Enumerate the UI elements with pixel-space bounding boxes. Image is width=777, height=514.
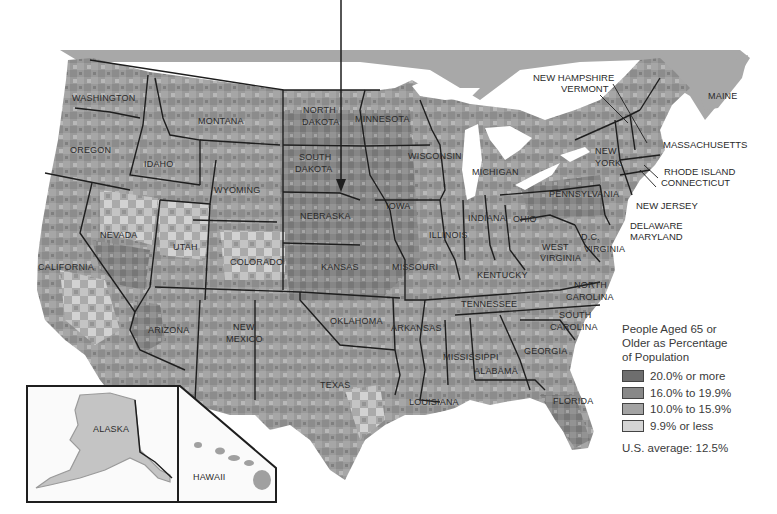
state-label: WASHINGTON bbox=[72, 93, 136, 103]
state-label: INDIANA bbox=[468, 213, 506, 223]
state-label: OREGON bbox=[70, 145, 111, 155]
state-label: VIRGINIA bbox=[540, 253, 581, 263]
state-label: NEW bbox=[595, 146, 617, 156]
legend-title: People Aged 65 or Older as Percentage of… bbox=[622, 322, 752, 364]
state-label: GEORGIA bbox=[524, 346, 567, 356]
state-label: VIRGINIA bbox=[584, 244, 625, 254]
state-label: WISCONSIN bbox=[408, 151, 462, 161]
callout-label: NEW HAMPSHIRE bbox=[533, 72, 614, 83]
state-label: WYOMING bbox=[214, 185, 260, 195]
state-label: MONTANA bbox=[198, 116, 244, 126]
legend-item-10-to-15: 10.0% to 15.9% bbox=[622, 401, 777, 417]
state-label: MICHIGAN bbox=[472, 167, 519, 177]
state-label: YORK bbox=[595, 158, 621, 168]
state-label: CAROLINA bbox=[550, 322, 598, 332]
legend-title-line: People Aged 65 or bbox=[622, 322, 752, 336]
state-label: CALIFORNIA bbox=[38, 262, 94, 272]
state-label: CAROLINA bbox=[566, 292, 614, 302]
state-label: NEBRASKA bbox=[300, 211, 351, 221]
callout-label: DELAWARE bbox=[630, 220, 683, 231]
state-label: ALASKA bbox=[93, 424, 129, 434]
alaska-inset bbox=[27, 386, 178, 502]
legend-item-16-to-19: 16.0% to 19.9% bbox=[622, 385, 777, 401]
callout-label: MASSACHUSETTS bbox=[663, 139, 747, 150]
state-label: SOUTH bbox=[559, 310, 592, 320]
region-colorado-light bbox=[220, 230, 285, 280]
state-label: MISSOURI bbox=[392, 262, 438, 272]
state-label: NORTH bbox=[574, 280, 607, 290]
state-label: ARKANSAS bbox=[391, 323, 442, 333]
callout-label: CONNECTICUT bbox=[661, 177, 730, 188]
state-label: NEVADA bbox=[100, 230, 138, 240]
legend-item-20-plus: 20.0% or more bbox=[622, 368, 777, 384]
legend-item-under-10: 9.9% or less bbox=[622, 418, 777, 434]
state-label: KENTUCKY bbox=[477, 270, 528, 280]
state-label: NEW bbox=[233, 322, 255, 332]
state-label: HAWAII bbox=[193, 472, 226, 482]
state-label: D.C. bbox=[581, 232, 600, 242]
state-label: DAKOTA bbox=[295, 164, 333, 174]
legend-label: 20.0% or more bbox=[650, 370, 725, 382]
state-label: IDAHO bbox=[144, 159, 174, 169]
state-label: COLORADO bbox=[230, 257, 283, 267]
state-label: MISSISSIPPI bbox=[443, 352, 499, 362]
state-label: MINNESOTA bbox=[355, 114, 410, 124]
state-label: KANSAS bbox=[321, 262, 359, 272]
legend-label: 10.0% to 15.9% bbox=[650, 403, 731, 415]
callout-label: VERMONT bbox=[561, 83, 609, 94]
legend-swatch bbox=[622, 420, 644, 432]
state-label: ALABAMA bbox=[474, 366, 518, 376]
callout-label: MARYLAND bbox=[630, 231, 683, 242]
legend-label: 9.9% or less bbox=[650, 420, 713, 432]
state-label: OHIO bbox=[513, 214, 537, 224]
state-label: WEST bbox=[542, 242, 569, 252]
legend-title-line: of Population bbox=[622, 350, 752, 364]
callout-label: RHODE ISLAND bbox=[664, 166, 735, 177]
state-label: LOUISIANA bbox=[409, 397, 459, 407]
state-label: SOUTH bbox=[299, 152, 332, 162]
state-label: NORTH bbox=[303, 105, 336, 115]
legend-swatch bbox=[622, 370, 644, 382]
legend: People Aged 65 or Older as Percentage of… bbox=[622, 322, 777, 454]
callout-label: NEW JERSEY bbox=[636, 200, 698, 211]
state-label: FLORIDA bbox=[553, 396, 593, 406]
state-label: TENNESSEE bbox=[461, 299, 517, 309]
state-label: DAKOTA bbox=[302, 117, 340, 127]
legend-label: 16.0% to 19.9% bbox=[650, 387, 731, 399]
legend-swatch bbox=[622, 387, 644, 399]
state-label: PENNSYLVANIA bbox=[549, 189, 619, 199]
legend-title-line: Older as Percentage bbox=[622, 336, 752, 350]
state-label: OKLAHOMA bbox=[330, 316, 383, 326]
state-label: IOWA bbox=[386, 201, 410, 211]
legend-swatch bbox=[622, 403, 644, 415]
state-label: MEXICO bbox=[226, 334, 263, 344]
state-label: UTAH bbox=[173, 242, 198, 252]
state-label: ARIZONA bbox=[148, 325, 189, 335]
state-label: ILLINOIS bbox=[429, 230, 468, 240]
us-average: U.S. average: 12.5% bbox=[622, 442, 777, 454]
state-label: TEXAS bbox=[320, 380, 351, 390]
state-label: MAINE bbox=[708, 91, 738, 101]
